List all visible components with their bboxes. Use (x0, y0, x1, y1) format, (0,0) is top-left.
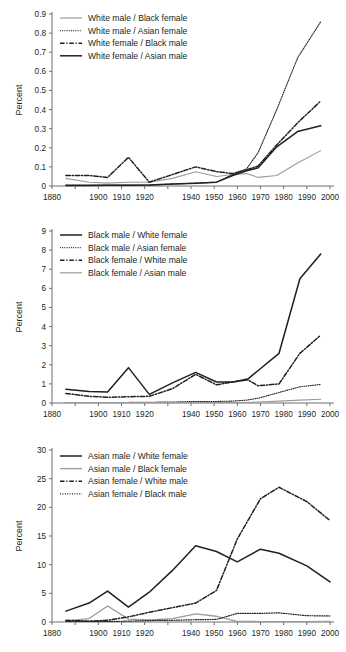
x-tick-label: 2000 (321, 193, 340, 202)
x-tick-label: 1990 (298, 193, 317, 202)
y-tick-label: 3 (41, 342, 46, 351)
y-tick-label: 5 (41, 303, 46, 312)
y-tick-label: 6 (41, 284, 46, 293)
y-tick-label: 10 (37, 561, 47, 570)
y-axis-title: Percent (14, 520, 24, 552)
x-tick-label: 1960 (228, 629, 247, 638)
x-tick-label: 1970 (251, 629, 270, 638)
x-tick-label: 1900 (89, 193, 108, 202)
y-tick-label: 20 (37, 503, 47, 512)
y-tick-label: 15 (37, 532, 47, 541)
x-tick-label: 1950 (205, 629, 224, 638)
y-tick-label: 9 (41, 227, 46, 236)
legend-label: Black female / White male (88, 255, 188, 265)
series-line (66, 335, 321, 397)
x-tick-label: 1900 (89, 410, 108, 419)
x-tick-label: 1980 (275, 410, 294, 419)
x-tick-label: 2000 (321, 629, 340, 638)
x-tick-label: 1880 (43, 193, 62, 202)
x-tick-label: 1960 (228, 410, 247, 419)
x-tick-label: 1940 (182, 410, 201, 419)
legend-label: White male / Asian female (88, 26, 188, 36)
y-tick-label: 0.4 (35, 106, 47, 115)
series-line (66, 384, 321, 402)
legend-label: Black male / Asian female (88, 243, 187, 253)
x-tick-label: 1990 (298, 629, 317, 638)
y-tick-label: 0.9 (35, 10, 47, 19)
x-tick-label: 2000 (321, 410, 340, 419)
y-tick-label: 0 (41, 399, 46, 408)
y-tick-label: 0 (41, 618, 46, 627)
legend-label: White male / Black female (88, 13, 188, 23)
y-tick-label: 4 (41, 323, 46, 332)
figure-three-panel-line-charts: 00.10.20.30.40.50.60.70.80.9188019001910… (0, 0, 346, 652)
panel-2-black: 0123456789188019001910192019401950196019… (0, 217, 346, 434)
legend-label: White female / Black male (88, 38, 188, 48)
x-tick-label: 1910 (112, 629, 131, 638)
y-tick-label: 0.6 (35, 67, 47, 76)
legend-label: White female / Asian male (88, 51, 188, 61)
x-tick-label: 1920 (136, 193, 155, 202)
x-tick-label: 1940 (182, 629, 201, 638)
x-tick-label: 1940 (182, 193, 201, 202)
legend-label: Black female / Asian male (88, 268, 187, 278)
panel-3-asian: 0510152025301880190019101920194019501960… (0, 434, 346, 651)
y-tick-label: 2 (41, 361, 46, 370)
x-tick-label: 1960 (228, 193, 247, 202)
y-tick-label: 0.3 (35, 125, 47, 134)
y-tick-label: 0.2 (35, 144, 47, 153)
y-tick-label: 0.1 (35, 163, 47, 172)
y-tick-label: 25 (37, 475, 47, 484)
y-tick-label: 5 (41, 589, 46, 598)
y-tick-label: 1 (41, 380, 46, 389)
x-tick-label: 1880 (43, 629, 62, 638)
x-tick-label: 1920 (136, 410, 155, 419)
x-tick-label: 1950 (205, 410, 224, 419)
y-tick-label: 0 (41, 182, 46, 191)
legend-label: Black male / White female (88, 230, 188, 240)
x-tick-label: 1980 (275, 629, 294, 638)
x-tick-label: 1970 (251, 193, 270, 202)
y-tick-label: 8 (41, 246, 46, 255)
series-line (66, 487, 330, 621)
x-tick-label: 1970 (251, 410, 270, 419)
x-tick-label: 1950 (205, 193, 224, 202)
y-tick-label: 30 (37, 446, 47, 455)
y-tick-label: 0.5 (35, 86, 47, 95)
series-line (66, 399, 321, 402)
y-tick-label: 0.8 (35, 29, 47, 38)
x-tick-label: 1880 (43, 410, 62, 419)
legend-label: Asian male / White female (88, 451, 188, 461)
x-tick-label: 1910 (112, 410, 131, 419)
y-tick-label: 7 (41, 265, 46, 274)
legend-label: Asian female / White male (88, 476, 188, 486)
x-tick-label: 1920 (136, 629, 155, 638)
y-axis-title: Percent (14, 84, 24, 116)
legend-label: Asian female / Black male (88, 489, 187, 499)
panel-1-white: 00.10.20.30.40.50.60.70.80.9188019001910… (0, 0, 346, 217)
legend-label: Asian male / Black female (88, 464, 187, 474)
y-axis-title: Percent (14, 301, 24, 333)
x-tick-label: 1910 (112, 193, 131, 202)
x-tick-label: 1900 (89, 629, 108, 638)
y-tick-label: 0.7 (35, 48, 47, 57)
x-tick-label: 1990 (298, 410, 317, 419)
x-tick-label: 1980 (275, 193, 294, 202)
series-line (66, 101, 321, 182)
